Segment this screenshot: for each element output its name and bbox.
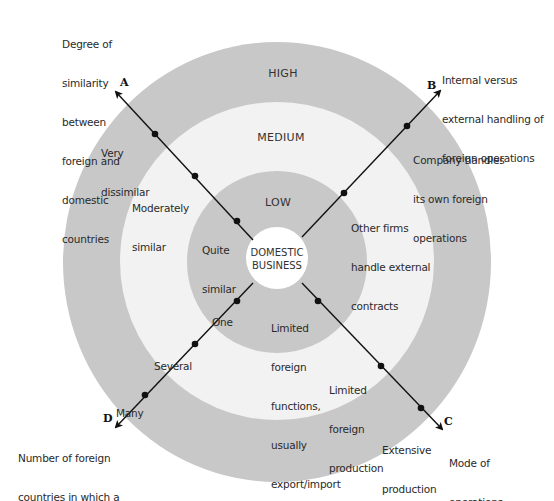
axis-a-dot-moderately-similar: [192, 173, 199, 180]
ring-label-low: LOW: [265, 196, 291, 209]
axis-d-title: Number of foreign countries in which a f…: [18, 426, 119, 501]
axis-c-title-line: operations: [449, 496, 503, 501]
axis-a-title-line: Degree of: [62, 38, 120, 51]
label-line: Other firms: [351, 222, 430, 235]
axis-b-title-line: external handling of: [442, 113, 544, 126]
axis-d-label-several: Several: [154, 334, 192, 399]
axis-letter-b: B: [427, 79, 436, 92]
label-line: Limited: [329, 384, 393, 397]
axis-b-dot-other-firms: [341, 190, 348, 197]
axis-b-title-line: Internal versus: [442, 74, 544, 87]
label-line: Quite: [202, 244, 236, 257]
label-line: production: [382, 483, 442, 496]
center-label-line1: DOMESTIC: [232, 246, 322, 259]
axis-d-label-many: Many: [116, 381, 144, 446]
axis-d-dot-several: [192, 341, 199, 348]
label-line: One: [212, 316, 233, 329]
axis-b-dot-company-handles: [404, 123, 411, 130]
axis-a-title-line: countries: [62, 233, 120, 246]
label-line: Many: [116, 407, 144, 420]
label-line: handle external: [351, 261, 430, 274]
axis-d-label-one: One: [212, 290, 233, 355]
center-label: DOMESTIC BUSINESS: [232, 246, 322, 272]
label-line: similar: [132, 241, 189, 254]
label-line: Very: [101, 147, 149, 160]
axis-a-label-moderately-similar: Moderately similar: [132, 176, 189, 280]
ring-label-high: HIGH: [268, 67, 298, 80]
label-line: Extensive: [382, 444, 442, 457]
internationalization-diagram: HIGH MEDIUM LOW DOMESTIC BUSINESS A B C …: [0, 0, 554, 501]
center-label-line2: BUSINESS: [232, 259, 322, 272]
axis-d-title-line: countries in which a: [18, 491, 119, 501]
label-line: contracts: [351, 300, 430, 313]
label-line: Company handles: [413, 154, 505, 167]
axis-letter-c: C: [444, 415, 453, 428]
axis-d-title-line: Number of foreign: [18, 452, 119, 465]
axis-a-title-line: similarity: [62, 77, 120, 90]
axis-letter-d: D: [103, 412, 113, 425]
axis-letter-a: A: [120, 76, 129, 89]
axis-c-label-extensive: Extensive production abroad with FDI and…: [382, 418, 442, 501]
axis-c-title: Mode of operations: [449, 431, 503, 501]
axis-c-dot-extensive: [418, 405, 425, 412]
axis-c-title-line: Mode of: [449, 457, 503, 470]
ring-label-medium: MEDIUM: [257, 131, 305, 144]
label-line: Moderately: [132, 202, 189, 215]
axis-b-label-other-firms: Other firms handle external contracts: [351, 196, 430, 339]
label-line: Several: [154, 360, 192, 373]
label-line: Limited: [271, 322, 341, 335]
axis-a-dot-very-dissimilar: [152, 131, 159, 138]
